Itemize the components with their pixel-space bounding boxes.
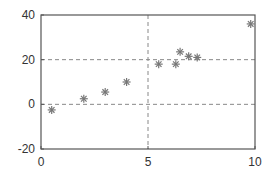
y-tick-label: 40 <box>22 8 36 22</box>
asterisk-marker <box>48 106 56 114</box>
x-tick-label: 0 <box>38 155 45 169</box>
asterisk-marker <box>176 48 184 56</box>
y-axis-ticks: -2002040 <box>18 8 44 156</box>
asterisk-marker <box>185 52 193 60</box>
scatter-chart: 0510 -2002040 <box>0 0 272 178</box>
asterisk-marker <box>155 60 163 68</box>
x-tick-label: 5 <box>145 155 152 169</box>
data-points <box>48 20 255 114</box>
asterisk-marker <box>247 20 255 28</box>
asterisk-marker <box>80 95 88 103</box>
y-tick-label: 0 <box>28 97 35 111</box>
asterisk-marker <box>123 78 131 86</box>
grid-lines <box>41 15 255 149</box>
y-tick-label: -20 <box>18 142 36 156</box>
asterisk-marker <box>193 53 201 61</box>
x-tick-label: 10 <box>248 155 262 169</box>
y-tick-label: 20 <box>22 53 36 67</box>
asterisk-marker <box>101 88 109 96</box>
asterisk-marker <box>172 60 180 68</box>
